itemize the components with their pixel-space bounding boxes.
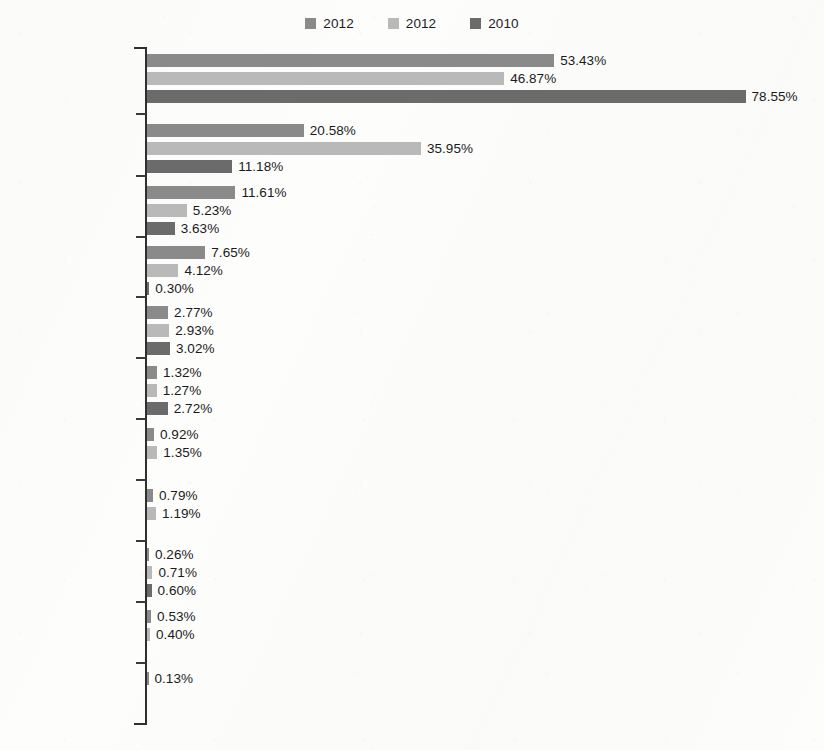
bar[interactable] xyxy=(147,566,152,579)
bar-value-label: 0.79% xyxy=(159,487,198,504)
bar[interactable] xyxy=(147,222,175,235)
bar[interactable] xyxy=(147,342,170,355)
bar[interactable] xyxy=(147,446,157,459)
bar-value-label: 1.27% xyxy=(163,382,202,399)
axis-tick xyxy=(136,113,146,115)
bar[interactable] xyxy=(147,54,554,67)
bar-value-label: 5.23% xyxy=(193,202,232,219)
bar[interactable] xyxy=(147,306,168,319)
bar-value-label: 0.60% xyxy=(158,582,197,599)
bar-value-label: 0.53% xyxy=(157,608,196,625)
bar-value-label: 46.87% xyxy=(510,70,556,87)
bar-value-label: 2.93% xyxy=(175,322,214,339)
plot-area: Judicial action53.43%46.87%78.55%Violent… xyxy=(0,0,824,750)
bar[interactable] xyxy=(147,402,168,415)
bar[interactable] xyxy=(147,610,151,623)
axis-tick xyxy=(136,296,146,298)
bar-value-label: 0.26% xyxy=(155,546,194,563)
bar[interactable] xyxy=(147,324,169,337)
axis-tick xyxy=(136,662,146,664)
bar-value-label: 20.58% xyxy=(310,122,356,139)
bar[interactable] xyxy=(147,72,504,85)
bar-value-label: 4.12% xyxy=(184,262,223,279)
bar[interactable] xyxy=(147,246,205,259)
axis-tick xyxy=(136,418,146,420)
bar[interactable] xyxy=(147,366,157,379)
bar[interactable] xyxy=(147,548,149,561)
bar-value-label: 2.72% xyxy=(174,400,213,417)
bar[interactable] xyxy=(147,428,154,441)
bar-value-label: 0.71% xyxy=(158,564,197,581)
axis-tick xyxy=(136,175,146,177)
bar-value-label: 7.65% xyxy=(211,244,250,261)
bar[interactable] xyxy=(147,142,421,155)
bar[interactable] xyxy=(147,204,187,217)
bar[interactable] xyxy=(147,384,157,397)
bar-value-label: 11.61% xyxy=(241,184,286,201)
axis-tick xyxy=(136,479,146,481)
bar[interactable] xyxy=(147,186,235,199)
bar-value-label: 0.40% xyxy=(156,626,195,643)
bar[interactable] xyxy=(147,584,152,597)
bar-value-label: 1.35% xyxy=(163,444,202,461)
axis-tick xyxy=(136,236,146,238)
bar-value-label: 1.32% xyxy=(163,364,202,381)
bar-value-label: 11.18% xyxy=(238,158,283,175)
chart-container: 2012 2012 2010 Judicial action53.43%46.8… xyxy=(0,0,824,750)
axis-tick xyxy=(136,540,146,542)
bar[interactable] xyxy=(147,628,150,641)
axis-tick xyxy=(136,357,146,359)
bar[interactable] xyxy=(147,160,232,173)
bar[interactable] xyxy=(147,124,304,137)
bar-value-label: 1.19% xyxy=(162,505,201,522)
bar-value-label: 35.95% xyxy=(427,140,473,157)
bar-value-label: 2.77% xyxy=(174,304,213,321)
axis-end-cap xyxy=(134,47,147,49)
axis-tick xyxy=(136,601,146,603)
bar[interactable] xyxy=(147,507,156,520)
bar-value-label: 78.55% xyxy=(752,88,798,105)
bar-value-label: 0.13% xyxy=(155,670,194,687)
axis-end-cap xyxy=(134,723,147,725)
bar[interactable] xyxy=(147,90,746,103)
bar-value-label: 3.02% xyxy=(176,340,215,357)
bar[interactable] xyxy=(147,282,149,295)
bar-value-label: 0.92% xyxy=(160,426,199,443)
bar[interactable] xyxy=(147,672,149,685)
bar[interactable] xyxy=(147,264,178,277)
bar-value-label: 0.30% xyxy=(155,280,194,297)
bar-value-label: 53.43% xyxy=(560,52,606,69)
bar-value-label: 3.63% xyxy=(181,220,220,237)
bar[interactable] xyxy=(147,489,153,502)
